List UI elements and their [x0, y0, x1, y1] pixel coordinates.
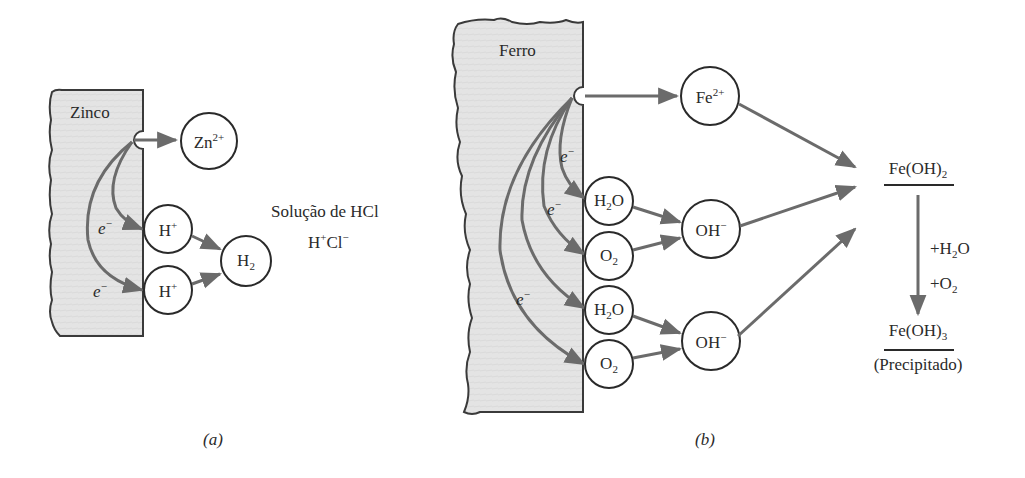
o2-label-1: O2: [600, 246, 618, 266]
feoh2-label: Fe(OH)2: [889, 160, 947, 177]
h-ion-label-2: H+: [159, 282, 178, 302]
reagent-h2o: +H2O: [930, 240, 970, 257]
caption-a: (a): [203, 431, 223, 448]
fe-ion-label: Fe2+: [696, 88, 725, 108]
arrow-h2-to-h2: [192, 274, 220, 284]
h2-label: H2: [237, 251, 255, 271]
electron-label-b3: e−: [516, 291, 531, 308]
zinc-label: Zinco: [70, 104, 110, 121]
caption-b: (b): [695, 431, 715, 448]
solution-ions: H+Cl−: [308, 234, 349, 251]
precipitate-note: (Precipitado): [874, 356, 963, 373]
arrow-oh1-to-feoh2: [740, 187, 855, 226]
oh-label-1: OH−: [696, 221, 727, 241]
zn-ion-label: Zn2+: [194, 133, 225, 153]
arrow-h1-to-h2: [192, 236, 220, 249]
oh-label-2: OH−: [696, 333, 727, 353]
feoh3-underline: [884, 349, 954, 351]
diagram-canvas: [0, 0, 1025, 478]
electron-label-b2: e−: [547, 201, 562, 218]
arrow-h2o1-to-oh1: [633, 207, 680, 222]
o2-label-2: O2: [600, 354, 618, 374]
electron-label-a2: e−: [93, 283, 108, 300]
feoh2-underline: [884, 184, 954, 186]
arrow-fe-to-feoh2: [739, 104, 855, 167]
iron-label: Ferro: [499, 42, 536, 59]
h2o-label-1: H2O: [594, 191, 624, 211]
arrow-h2o2-to-oh2: [633, 316, 680, 333]
arrow-o22-to-oh2: [633, 349, 680, 358]
arrow-o21-to-oh1: [633, 238, 680, 250]
h-ion-label-1: H+: [159, 221, 178, 241]
reagent-o2: +O2: [930, 275, 957, 292]
arrow-oh2-to-feoh2: [738, 229, 855, 336]
h2o-label-2: H2O: [594, 300, 624, 320]
electron-label-b1: e−: [560, 148, 575, 165]
iron-metal-block: [452, 18, 583, 414]
electron-label-a1: e−: [98, 220, 113, 237]
feoh3-label: Fe(OH)3: [889, 322, 947, 339]
solution-label: Solução de HCl: [271, 203, 379, 220]
